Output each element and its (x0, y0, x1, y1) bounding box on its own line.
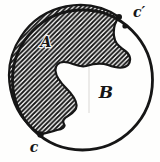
disk-crosscut-diagram: A B c c′ (0, 0, 160, 162)
point-c-prime-dot (116, 14, 122, 20)
label-point-c-prime: c′ (133, 4, 146, 20)
label-region-b: B (98, 82, 113, 102)
textbook-figure: A B c c′ (0, 0, 160, 162)
label-region-a: A (39, 34, 52, 50)
label-point-c: c (30, 139, 39, 155)
point-c-dot (37, 131, 43, 137)
region-a-hatched (9, 5, 130, 134)
point-c-prime-inner-dot (122, 23, 127, 28)
